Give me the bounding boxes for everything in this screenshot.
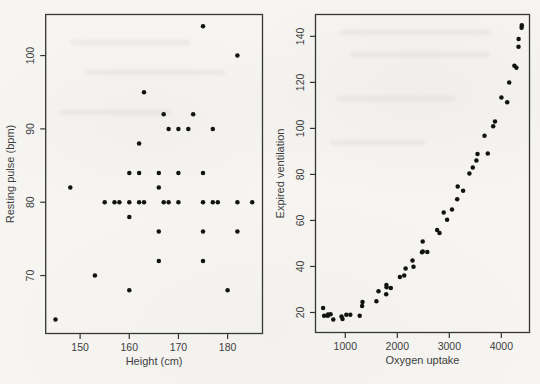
- data-point: [157, 185, 162, 190]
- data-point: [507, 80, 512, 85]
- data-point: [499, 95, 504, 100]
- y-tick-label: 60: [294, 214, 306, 226]
- data-point: [384, 292, 389, 297]
- data-point: [102, 200, 107, 205]
- data-point: [374, 299, 379, 304]
- data-point: [176, 127, 181, 132]
- data-point: [235, 200, 240, 205]
- y-tick-label: 80: [24, 196, 36, 208]
- data-point: [467, 171, 472, 176]
- data-point: [211, 127, 216, 132]
- data-point: [137, 171, 142, 176]
- data-point: [137, 141, 142, 146]
- data-point: [127, 288, 132, 293]
- data-point: [357, 313, 362, 318]
- x-tick-label: 3000: [438, 340, 462, 352]
- data-point: [389, 286, 394, 291]
- data-point: [344, 313, 349, 318]
- data-point: [516, 37, 521, 42]
- data-point: [53, 317, 58, 322]
- data-point: [201, 24, 206, 29]
- data-point: [328, 312, 333, 317]
- data-point: [201, 229, 206, 234]
- x-tick-label: 4000: [490, 340, 514, 352]
- data-point: [505, 100, 510, 105]
- data-point: [403, 266, 408, 271]
- data-point: [142, 200, 147, 205]
- data-point: [166, 127, 171, 132]
- data-point: [161, 112, 166, 117]
- scatter-plots-canvas: 150160170180708090100Height (cm)Resting …: [0, 0, 540, 384]
- y-tick-label: 70: [24, 270, 36, 282]
- data-point: [117, 200, 122, 205]
- x-tick-label: 1000: [334, 340, 358, 352]
- data-point: [514, 65, 519, 70]
- data-point: [410, 258, 415, 263]
- data-point: [493, 119, 498, 124]
- data-point: [471, 165, 476, 170]
- y-tick-label: 80: [294, 168, 306, 180]
- data-point: [516, 44, 521, 49]
- data-point: [142, 90, 147, 95]
- y-tick-label: 90: [24, 123, 36, 135]
- data-point: [474, 158, 479, 163]
- data-point: [455, 197, 460, 202]
- y-tick-label: 40: [294, 260, 306, 272]
- data-point: [137, 200, 142, 205]
- data-point: [376, 289, 381, 294]
- data-point: [455, 184, 460, 189]
- plot-box: [46, 15, 263, 334]
- data-point: [211, 200, 216, 205]
- data-point: [127, 200, 132, 205]
- data-point: [461, 189, 466, 194]
- data-point: [384, 285, 389, 290]
- y-tick-label: 100: [24, 47, 36, 65]
- data-point: [201, 259, 206, 264]
- data-point: [437, 231, 442, 236]
- x-tick-label: 170: [170, 341, 188, 353]
- y-axis-title: Expired ventilation: [274, 129, 286, 219]
- x-tick-label: 2000: [386, 340, 410, 352]
- data-point: [166, 200, 171, 205]
- data-point: [520, 23, 525, 28]
- data-point: [420, 239, 425, 244]
- y-tick-label: 20: [294, 306, 306, 318]
- data-point: [348, 313, 353, 318]
- data-point: [157, 229, 162, 234]
- data-point: [360, 304, 365, 309]
- data-point: [176, 171, 181, 176]
- data-point: [475, 152, 480, 157]
- data-point: [216, 200, 221, 205]
- data-point: [340, 317, 345, 322]
- data-point: [201, 171, 206, 176]
- data-point: [93, 273, 98, 278]
- data-point: [445, 218, 450, 223]
- y-tick-label: 100: [294, 119, 306, 137]
- data-point: [112, 200, 117, 205]
- data-point: [176, 200, 181, 205]
- data-point: [450, 207, 455, 212]
- data-point: [421, 249, 426, 254]
- y-axis-title: Resting pulse (bpm): [4, 125, 16, 223]
- data-point: [235, 53, 240, 58]
- data-point: [321, 306, 326, 311]
- x-axis-title: Oxygen uptake: [386, 354, 460, 366]
- x-tick-label: 180: [219, 341, 237, 353]
- data-point: [191, 112, 196, 117]
- plot-box: [316, 15, 530, 333]
- data-point: [127, 171, 132, 176]
- two-panel-scatter-figure: 150160170180708090100Height (cm)Resting …: [0, 0, 540, 384]
- x-tick-label: 160: [121, 341, 139, 353]
- data-point: [411, 264, 416, 269]
- data-point: [127, 215, 132, 220]
- data-point: [161, 200, 166, 205]
- data-point: [491, 124, 496, 129]
- y-tick-label: 120: [294, 73, 306, 91]
- y-tick-label: 140: [294, 27, 306, 45]
- data-point: [225, 288, 230, 293]
- data-point: [425, 250, 430, 255]
- data-point: [398, 275, 403, 280]
- data-point: [402, 273, 407, 278]
- data-point: [235, 229, 240, 234]
- data-point: [186, 127, 191, 132]
